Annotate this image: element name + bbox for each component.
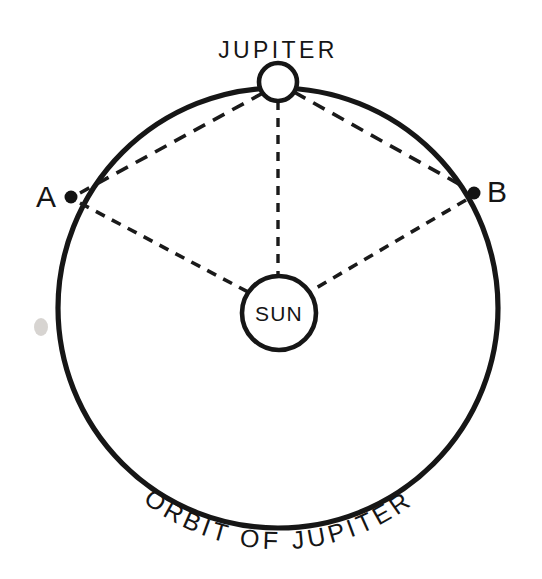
- paper-smudge: [34, 318, 48, 336]
- point-a-marker[interactable]: [65, 191, 78, 204]
- point-a-label: A: [36, 180, 56, 213]
- sightline-b-sun: [311, 200, 466, 291]
- jupiter-body[interactable]: [259, 63, 297, 101]
- point-b-marker[interactable]: [468, 187, 481, 200]
- diagram-canvas: JUPITER SUN A B ORBIT OF JUPITER: [0, 0, 542, 579]
- jupiter-label: JUPITER: [218, 37, 338, 63]
- sun-label: SUN: [255, 302, 303, 325]
- orbit-caption: ORBIT OF JUPITER: [140, 483, 418, 554]
- sightline-jupiter-b: [294, 92, 466, 188]
- sightline-a-sun: [80, 203, 248, 292]
- orbit-diagram: JUPITER SUN A B ORBIT OF JUPITER: [0, 0, 542, 579]
- orbit-caption-path: ORBIT OF JUPITER: [140, 483, 418, 554]
- sightline-jupiter-a: [80, 93, 263, 193]
- point-b-label: B: [487, 175, 507, 208]
